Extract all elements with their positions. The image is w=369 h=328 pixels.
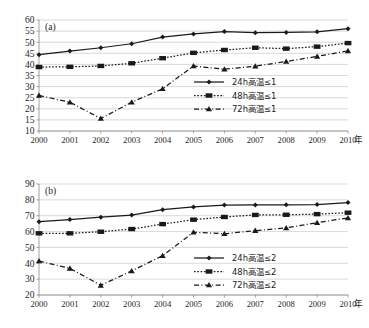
chart-a-gridlines xyxy=(39,20,348,131)
data-point xyxy=(160,35,165,40)
x-tick-label: 2008 xyxy=(278,299,295,309)
data-point xyxy=(67,49,72,54)
data-point xyxy=(315,29,320,34)
legend-label: 24h高温≤1 xyxy=(232,77,276,87)
data-point xyxy=(345,211,352,215)
y-tick-label: 60 xyxy=(25,15,35,25)
data-point xyxy=(314,212,321,216)
data-point xyxy=(252,213,259,217)
data-point xyxy=(36,65,43,69)
data-point xyxy=(190,217,197,221)
chart-panel-b: 2030405060708090 20002001200220032004200… xyxy=(0,164,369,328)
data-point xyxy=(160,253,166,258)
y-tick-label: 20 xyxy=(25,104,35,114)
data-point xyxy=(67,65,74,69)
panel-label-a: (a) xyxy=(45,22,56,33)
data-point xyxy=(221,215,228,219)
x-tick-label: 2005 xyxy=(185,135,202,145)
data-point xyxy=(191,204,196,209)
data-point xyxy=(283,213,290,217)
legend-marker xyxy=(206,93,213,97)
chart-b-series xyxy=(36,200,352,288)
data-point xyxy=(97,230,104,234)
y-tick-label: 90 xyxy=(25,179,35,189)
legend-marker xyxy=(207,80,212,85)
data-point xyxy=(346,200,351,205)
series-line-triangle xyxy=(39,51,348,119)
data-point xyxy=(37,52,42,57)
data-point xyxy=(221,48,228,52)
data-point xyxy=(159,222,166,226)
data-point xyxy=(345,48,351,53)
x-tick-label: 2004 xyxy=(154,135,172,145)
chart-b-svg: 2030405060708090 20002001200220032004200… xyxy=(0,164,369,328)
data-point xyxy=(129,268,135,273)
chart-a-axes xyxy=(37,20,349,134)
x-axis-unit-b: 年 xyxy=(354,298,363,309)
y-tick-label: 40 xyxy=(25,259,35,269)
x-tick-label: 2009 xyxy=(309,135,326,145)
x-tick-label: 2007 xyxy=(247,299,265,309)
data-point xyxy=(98,116,104,121)
data-point xyxy=(252,46,259,50)
y-tick-label: 30 xyxy=(25,274,35,284)
y-tick-label: 30 xyxy=(25,82,35,92)
x-tick-label: 2004 xyxy=(154,299,172,309)
y-tick-label: 70 xyxy=(25,211,35,221)
x-tick-label: 2003 xyxy=(123,135,140,145)
data-point xyxy=(97,64,104,68)
data-point xyxy=(67,217,72,222)
data-point xyxy=(346,26,351,31)
x-tick-label: 2000 xyxy=(30,135,47,145)
chart-a-legend: 24h高温≤148h高温≤172h高温≤1 xyxy=(194,77,276,114)
data-point xyxy=(314,220,320,225)
x-tick-label: 2002 xyxy=(92,299,109,309)
data-point xyxy=(315,202,320,207)
data-point xyxy=(284,30,289,35)
panel-label-b: (b) xyxy=(45,186,56,197)
data-point xyxy=(160,207,165,212)
x-tick-label: 2003 xyxy=(123,299,140,309)
x-tick-label: 2008 xyxy=(278,135,295,145)
y-tick-label: 50 xyxy=(25,38,35,48)
data-point xyxy=(98,45,103,50)
y-tick-label: 60 xyxy=(25,227,35,237)
x-tick-label: 2000 xyxy=(30,299,47,309)
data-point xyxy=(36,231,43,235)
data-point xyxy=(283,225,289,230)
chart-b-xtick-labels: 2000200120022003200420052006200720082009… xyxy=(30,299,356,309)
x-tick-label: 2001 xyxy=(61,299,78,309)
x-tick-label: 2005 xyxy=(185,299,202,309)
data-point xyxy=(190,51,197,55)
x-tick-label: 2001 xyxy=(61,135,78,145)
y-tick-label: 80 xyxy=(25,195,35,205)
chart-a-series xyxy=(36,26,352,121)
data-point xyxy=(36,92,42,97)
legend-label: 72h高温≤2 xyxy=(232,280,276,290)
data-point xyxy=(222,29,227,34)
data-point xyxy=(284,202,289,207)
chart-b-ytick-labels: 2030405060708090 xyxy=(25,179,35,300)
y-tick-label: 55 xyxy=(25,26,35,36)
data-point xyxy=(222,203,227,208)
data-point xyxy=(36,258,42,263)
x-tick-label: 2009 xyxy=(309,299,326,309)
data-point xyxy=(128,227,135,231)
y-tick-label: 25 xyxy=(25,93,35,103)
data-point xyxy=(283,46,290,50)
y-tick-label: 35 xyxy=(25,71,35,81)
y-tick-label: 45 xyxy=(25,49,35,59)
legend-marker xyxy=(206,269,213,273)
chart-b-gridlines xyxy=(39,184,348,295)
legend-label: 24h高温≤2 xyxy=(232,253,276,263)
x-axis-unit-a: 年 xyxy=(354,134,363,145)
x-tick-label: 2002 xyxy=(92,135,109,145)
series-line-triangle xyxy=(39,218,348,285)
data-point xyxy=(314,44,321,48)
y-tick-label: 15 xyxy=(25,115,35,125)
data-point xyxy=(253,202,258,207)
data-point xyxy=(128,61,135,65)
data-point xyxy=(67,231,74,235)
y-tick-label: 50 xyxy=(25,243,35,253)
chart-a-ytick-labels: 1015202530354045505560 xyxy=(25,15,35,136)
